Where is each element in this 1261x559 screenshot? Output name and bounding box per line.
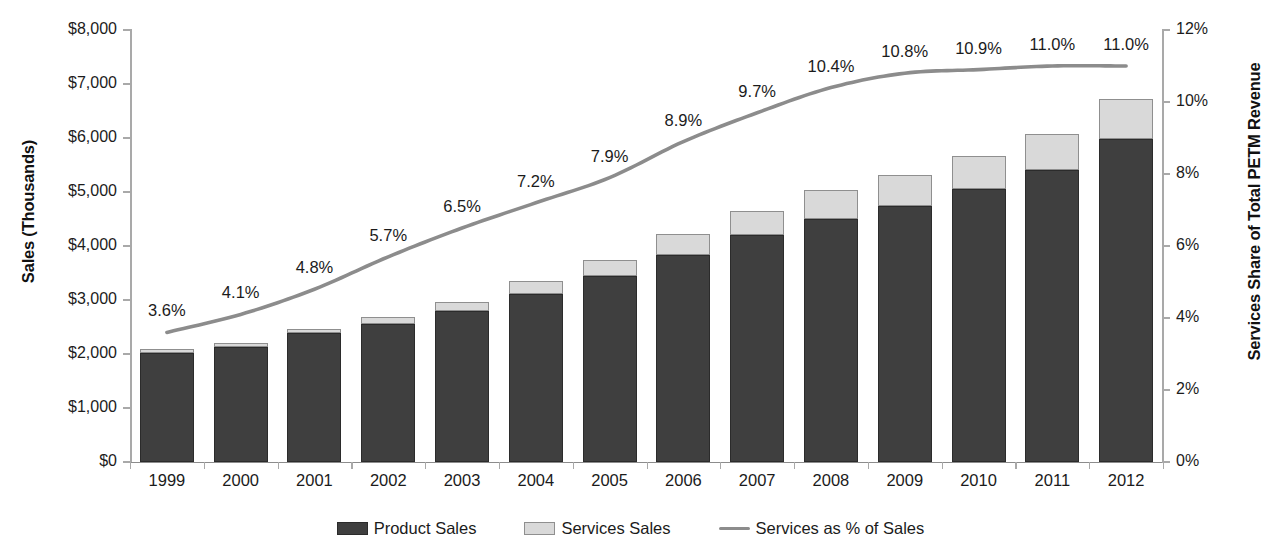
y-axis-left-tick xyxy=(123,353,131,354)
y-axis-right-tick xyxy=(1162,173,1170,174)
bar-segment-services-sales[interactable] xyxy=(878,175,932,206)
line-data-label: 4.8% xyxy=(296,258,334,277)
bar-segment-product-sales[interactable] xyxy=(583,276,637,462)
bar-segment-product-sales[interactable] xyxy=(509,294,563,462)
x-axis-label: 2009 xyxy=(886,471,923,490)
bar-segment-product-sales[interactable] xyxy=(878,206,932,462)
x-axis-label: 2006 xyxy=(665,471,702,490)
bar-segment-product-sales[interactable] xyxy=(804,219,858,462)
bar-segment-product-sales[interactable] xyxy=(656,255,710,462)
x-axis-tick xyxy=(942,462,943,469)
bar-segment-services-sales[interactable] xyxy=(583,260,637,276)
bar-segment-product-sales[interactable] xyxy=(730,235,784,462)
line-series-layer xyxy=(130,30,1163,462)
y-axis-left-tick-label: $7,000 xyxy=(7,74,117,92)
bar-segment-product-sales[interactable] xyxy=(287,333,341,462)
x-axis-tick xyxy=(351,462,352,469)
line-data-label: 7.2% xyxy=(517,172,555,191)
y-axis-right-tick-label: 6% xyxy=(1176,236,1246,254)
bar-group[interactable] xyxy=(287,329,341,462)
bar-group[interactable] xyxy=(656,234,710,462)
bar-group[interactable] xyxy=(140,349,194,462)
y-axis-left-tick-label: $2,000 xyxy=(7,344,117,362)
line-data-label: 4.1% xyxy=(222,283,260,302)
x-axis-tick xyxy=(1015,462,1016,469)
legend-item[interactable]: Product Sales xyxy=(337,519,477,538)
x-axis-tick xyxy=(647,462,648,469)
legend-item[interactable]: Services Sales xyxy=(524,519,670,538)
bar-group[interactable] xyxy=(361,317,415,462)
x-axis-label: 2011 xyxy=(1035,471,1070,490)
y-axis-left-tick xyxy=(123,29,131,30)
x-axis-tick xyxy=(868,462,869,469)
x-axis-label: 2010 xyxy=(960,471,997,490)
y-axis-right-tick xyxy=(1162,245,1170,246)
bar-segment-product-sales[interactable] xyxy=(140,353,194,462)
chart-canvas: Sales (Thousands) Services Share of Tota… xyxy=(0,0,1261,559)
y-axis-right-tick xyxy=(1162,29,1170,30)
x-axis-label: 2002 xyxy=(370,471,407,490)
legend-swatch-services-icon xyxy=(524,522,555,535)
bar-segment-services-sales[interactable] xyxy=(730,211,784,235)
x-axis-label: 2005 xyxy=(591,471,628,490)
bar-segment-product-sales[interactable] xyxy=(361,324,415,462)
legend-swatch-line-icon xyxy=(719,522,750,535)
bar-group[interactable] xyxy=(730,211,784,462)
line-data-label: 10.9% xyxy=(955,39,1002,58)
line-data-label: 6.5% xyxy=(443,197,481,216)
bar-group[interactable] xyxy=(804,190,858,462)
x-axis-tick xyxy=(794,462,795,469)
x-axis-tick xyxy=(499,462,500,469)
y-axis-left-tick-label: $6,000 xyxy=(7,128,117,146)
x-axis-tick xyxy=(573,462,574,469)
bar-segment-product-sales[interactable] xyxy=(214,347,268,462)
bar-segment-product-sales[interactable] xyxy=(435,311,489,462)
y-axis-right-tick-label: 8% xyxy=(1176,164,1246,182)
y-axis-right-tick xyxy=(1162,317,1170,318)
y-axis-left-tick xyxy=(123,407,131,408)
y-axis-right-tick-label: 2% xyxy=(1176,380,1246,398)
bar-segment-services-sales[interactable] xyxy=(435,302,489,312)
line-data-label: 11.0% xyxy=(1030,35,1076,54)
x-axis-label: 2008 xyxy=(813,471,850,490)
x-axis-label: 2000 xyxy=(222,471,259,490)
legend-item[interactable]: Services as % of Sales xyxy=(719,519,925,538)
y-axis-left-tick xyxy=(123,299,131,300)
bar-segment-services-sales[interactable] xyxy=(804,190,858,219)
bar-group[interactable] xyxy=(214,343,268,462)
bar-group[interactable] xyxy=(435,302,489,462)
bar-group[interactable] xyxy=(509,281,563,462)
x-axis-label: 2012 xyxy=(1108,471,1145,490)
bar-segment-services-sales[interactable] xyxy=(1025,134,1079,170)
legend-label: Product Sales xyxy=(374,519,477,538)
x-axis-label: 2003 xyxy=(444,471,481,490)
bar-group[interactable] xyxy=(1025,134,1079,462)
x-axis-tick xyxy=(204,462,205,469)
y-axis-left-tick-label: $8,000 xyxy=(7,20,117,38)
y-axis-right-tick xyxy=(1162,101,1170,102)
x-axis-tick xyxy=(720,462,721,469)
x-axis-tick xyxy=(1163,462,1164,469)
legend-label: Services as % of Sales xyxy=(756,519,925,538)
bar-segment-services-sales[interactable] xyxy=(952,156,1006,189)
bar-group[interactable] xyxy=(583,260,637,462)
y-axis-left-tick-label: $5,000 xyxy=(7,182,117,200)
bar-segment-services-sales[interactable] xyxy=(656,234,710,255)
bar-group[interactable] xyxy=(952,156,1006,462)
bar-segment-product-sales[interactable] xyxy=(1025,170,1079,462)
x-axis-tick xyxy=(1089,462,1090,469)
y-axis-left-tick-label: $1,000 xyxy=(7,398,117,416)
x-axis-label: 2001 xyxy=(296,471,333,490)
legend-label: Services Sales xyxy=(561,519,670,538)
bar-group[interactable] xyxy=(1099,99,1153,462)
bar-segment-product-sales[interactable] xyxy=(952,189,1006,462)
bar-segment-services-sales[interactable] xyxy=(361,317,415,324)
y-axis-right-tick-label: 10% xyxy=(1176,92,1246,110)
bar-group[interactable] xyxy=(878,175,932,462)
bar-segment-services-sales[interactable] xyxy=(509,281,563,294)
bar-segment-services-sales[interactable] xyxy=(1099,99,1153,139)
bar-segment-product-sales[interactable] xyxy=(1099,139,1153,462)
line-data-label: 8.9% xyxy=(665,111,703,130)
line-data-label: 10.4% xyxy=(808,57,855,76)
x-axis-label: 1999 xyxy=(149,471,186,490)
